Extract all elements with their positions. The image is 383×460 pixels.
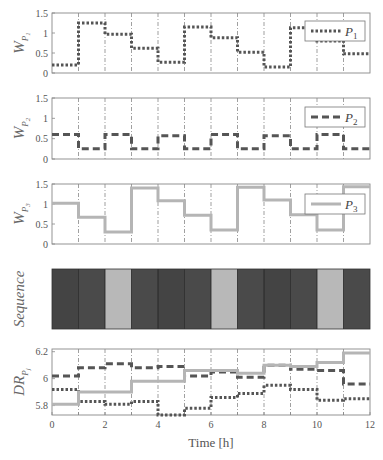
- x-tick-label: 4: [156, 419, 161, 430]
- y-tick-label: 0: [43, 68, 48, 79]
- y-tick-label: 1: [43, 113, 48, 124]
- sequence-block-p2: [291, 269, 318, 329]
- x-tick-label: 2: [103, 419, 108, 430]
- y-tick-label: 0.5: [36, 219, 49, 230]
- panel-dr: 5.866.2024681012DRPj: [11, 346, 375, 430]
- y-axis-label: DRPj: [11, 368, 32, 397]
- y-tick-label: 6: [43, 373, 48, 384]
- sequence-block-p1: [264, 269, 291, 329]
- y-tick-label: 1.5: [36, 8, 49, 19]
- sequence-block-p2: [344, 269, 371, 329]
- x-axis-label: Time [h]: [188, 435, 233, 450]
- panel-wp3: 00.511.5WP3P3: [11, 179, 370, 250]
- y-tick-label: 0.5: [36, 133, 49, 144]
- y-axis-label: WP2: [11, 117, 32, 139]
- y-tick-label: 0.5: [36, 48, 49, 59]
- sequence-block-p1: [52, 269, 79, 329]
- y-axis-label: WP1: [11, 32, 32, 54]
- x-tick-label: 0: [50, 419, 55, 430]
- y-tick-label: 1.5: [36, 179, 49, 190]
- x-tick-label: 6: [209, 419, 214, 430]
- y-tick-label: 0: [43, 239, 48, 250]
- y-axis-label: WP3: [11, 203, 32, 225]
- panel-sequence: Sequence: [11, 269, 370, 329]
- sequence-block-p3: [211, 269, 238, 329]
- sequence-block-p2: [185, 269, 212, 329]
- y-tick-label: 1: [43, 199, 48, 210]
- panel-wp2: 00.511.5WP2P2: [11, 93, 370, 165]
- panel-wp1: 00.511.5WP1P1: [11, 8, 370, 79]
- sequence-block-p3: [105, 269, 132, 329]
- figure: 00.511.5WP1P1 00.511.5WP2P2 00.511.5WP3P…: [0, 0, 383, 460]
- series-p1-line: [52, 385, 370, 415]
- y-axis-label: Sequence: [11, 270, 27, 327]
- sequence-block-p2: [238, 269, 265, 329]
- sequence-block-p1: [158, 269, 185, 329]
- sequence-block-p3: [317, 269, 344, 329]
- x-tick-label: 8: [262, 419, 267, 430]
- y-tick-label: 0: [43, 154, 48, 165]
- y-tick-label: 5.8: [36, 400, 49, 411]
- series-p2-line: [52, 364, 370, 384]
- y-tick-label: 6.2: [36, 346, 49, 357]
- sequence-block-p2: [132, 269, 159, 329]
- y-tick-label: 1: [43, 28, 48, 39]
- sequence-block-p2: [79, 269, 106, 329]
- x-tick-label: 12: [365, 419, 375, 430]
- y-tick-label: 1.5: [36, 93, 49, 104]
- x-tick-label: 10: [312, 419, 322, 430]
